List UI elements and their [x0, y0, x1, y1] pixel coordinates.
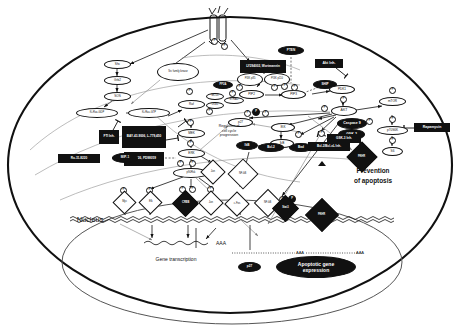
node-src-family-kinase: Src family kinase: [157, 63, 199, 81]
phospho-akt-2: P: [321, 105, 328, 112]
node-src-label: Src family kinase: [168, 71, 188, 74]
node-ras-gdp-label: Ki-Ras-GDP: [90, 112, 104, 115]
inhibitor-rapamycin[interactable]: Rapamycin: [414, 123, 450, 132]
phospho-raf-2: P: [206, 108, 213, 115]
phospho-akt-1: P: [340, 96, 347, 103]
phospho-pip3-1: P: [271, 84, 278, 91]
label-gene-transcription: Gene transcription: [136, 254, 216, 264]
inhibitor-pi3k-label: LY294002, Wortmannin: [246, 65, 280, 69]
node-pten: PTEN: [278, 46, 304, 55]
phospho-receptor-1: P: [211, 38, 218, 45]
phospho-tf-4: P: [189, 186, 196, 193]
nucleus-label-text: Nucleus: [77, 216, 104, 223]
poly-a-text-2: AAA: [296, 251, 304, 255]
inhibitor-rapamycin-label: Rapamycin: [423, 126, 442, 130]
phospho-p27-3: P: [262, 110, 269, 117]
mrna-squiggle-left: [144, 241, 208, 245]
node-akt-label: AKT: [341, 109, 348, 113]
prevention-line2: of apoptosis: [354, 176, 392, 186]
arrow-ras-raf: [168, 110, 182, 116]
phospho-receptor-2: P: [221, 43, 228, 50]
inhibitor-fti[interactable]: FTI Inh.: [99, 130, 119, 144]
node-pi3k-p85-label: PI3K p85: [245, 78, 256, 81]
node-nucleus-p27-label: p27: [247, 265, 252, 268]
phospho-mek-1: P: [187, 119, 194, 126]
node-pdk1-label: PDK1: [338, 88, 346, 91]
node-erk-label: ERK: [188, 152, 194, 155]
poly-a-text-3: AAA: [356, 251, 364, 255]
node-mip1: MIP-1: [112, 153, 138, 163]
phospho-pip3-3: P: [291, 84, 298, 91]
node-raf: Raf: [178, 100, 205, 109]
node-apoptotic-gene-expression: Apoptotic gene expression: [276, 256, 356, 278]
node-strad: STRAD: [224, 97, 244, 104]
node-nucleus-p27: p27: [238, 262, 261, 272]
tf-label-0: Myc: [122, 201, 127, 204]
phospho-bad: P: [318, 130, 325, 137]
node-akt: AKT: [331, 106, 357, 116]
inhibitor-pi3k[interactable]: LY294002, Wortmannin: [240, 60, 286, 73]
node-sos: SOS: [104, 92, 131, 101]
inhibitor-ro318220[interactable]: Ro-31-8220: [58, 154, 100, 163]
inhibitor-akt[interactable]: Akt Inh.: [315, 59, 343, 68]
node-p70s6k: p70S6K: [377, 126, 408, 135]
node-bad-label: Bad: [298, 146, 304, 149]
node-pi3k-p110-label: PI3K p110: [271, 78, 283, 81]
node-mo25: MO25: [206, 93, 224, 100]
node-caspase9-label: Caspase 9: [343, 122, 360, 126]
node-s6: S6: [382, 147, 403, 156]
node-ikk: IKK: [271, 123, 295, 132]
node-strad-label: STRAD: [230, 99, 239, 102]
arrow-akt-ikk: [288, 114, 332, 125]
tf-label-4: c-Fos: [234, 203, 240, 206]
apoptotic-line2: expression: [303, 267, 329, 273]
node-pp2a: PP2A: [213, 81, 233, 89]
phospho-rsk-1: P: [177, 160, 184, 167]
node-mek-label: MEK: [188, 132, 195, 135]
phospho-rsk-2: P: [189, 160, 196, 167]
phospho-pip3-2: P: [281, 83, 288, 90]
nuclear-membrane-wave: [70, 217, 394, 220]
phospho-raf-1: P: [186, 88, 193, 95]
node-raf-label: Raf: [189, 103, 194, 106]
node-p90rsk-label: p90Rsk: [187, 172, 196, 175]
node-pip3: PIP3: [281, 90, 306, 99]
phospho-pip2-1: P: [229, 90, 236, 97]
arrow-pip3-pdk1: [312, 91, 330, 94]
node-grb2: Grb2: [104, 76, 131, 85]
tf-label-5: NF-kB: [264, 202, 271, 205]
phospho-ikb: P: [295, 131, 302, 138]
node-pten-label: PTEN: [287, 49, 295, 52]
gene-transcription-text: Gene transcription: [156, 257, 197, 262]
node-caspase9: Caspase 9: [337, 118, 367, 129]
node-mip1-label: MIP-1: [121, 156, 129, 159]
phospho-pip2-2: P: [236, 84, 243, 91]
node-nfkb-label: NF-kB: [239, 173, 246, 176]
pathway-diagram: Shc Grb2 SOS Ki-Ras-GDP Ki-Ras-GTP Raf M…: [0, 0, 461, 325]
cellcycle-line3: progression: [220, 133, 238, 138]
inhibitor-raf[interactable]: BAY-43-9006, L-779,450: [122, 126, 166, 148]
node-bcl2: Bcl-2: [258, 143, 284, 152]
node-ras-gdp: Ki-Ras-GDP: [76, 108, 118, 118]
tf-label-7: FKHR: [318, 214, 325, 217]
phospho-p27-1: P: [244, 110, 251, 117]
node-ras-gtp: Ki-Ras-GTP: [128, 108, 170, 118]
phospho-s6: P: [389, 137, 396, 144]
inhibitor-bcl2-label: Bcl-2/Bcl-xL Inh.: [317, 145, 341, 148]
node-lkb1-label: LKB1: [212, 104, 218, 107]
inhibitor-raf-label: BAY-43-9006, L-779,450: [127, 135, 161, 139]
inhibitor-akt-label: Akt Inh.: [323, 62, 336, 66]
node-pp2a-label: PP2A: [220, 84, 227, 87]
node-erk: ERK: [178, 149, 205, 158]
node-mtor-label: mTOR: [388, 100, 397, 103]
inhibitor-bcl2[interactable]: Bcl-2/Bcl-xL Inh.: [308, 142, 350, 151]
node-pip2: PIP2: [239, 90, 264, 99]
arrow-akt-mtor: [356, 106, 382, 110]
node-p70s6k-label: p70S6K: [387, 129, 398, 132]
phospho-erk-1: P: [187, 140, 194, 147]
node-sos-label: SOS: [114, 95, 121, 98]
label-prevention-of-apoptosis: Prevention of apoptosis: [328, 165, 418, 187]
nuclear-membrane-wave-2: [70, 220, 394, 223]
node-ikk-label: IKK: [281, 126, 286, 129]
node-prevention-diamond-label: FKHR: [358, 156, 365, 159]
